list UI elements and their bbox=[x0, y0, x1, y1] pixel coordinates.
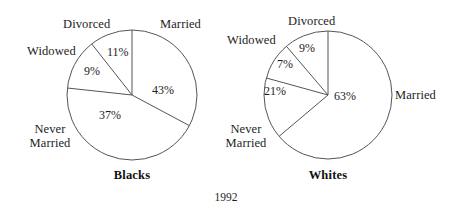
whites-value-never-married: 21% bbox=[264, 84, 286, 99]
blacks-value-married: 43% bbox=[152, 83, 174, 98]
whites-group-title: Whites bbox=[309, 168, 348, 183]
pie-whites-divider-married-never bbox=[279, 95, 328, 136]
whites-label-widowed: Widowed bbox=[227, 34, 276, 47]
blacks-label-married: Married bbox=[160, 18, 201, 31]
blacks-value-divorced: 11% bbox=[107, 45, 129, 60]
whites-value-married: 63% bbox=[334, 89, 356, 104]
blacks-value-never-married: 37% bbox=[99, 108, 121, 123]
pie-blacks-divider-never-widowed bbox=[67, 88, 132, 95]
whites-value-widowed: 7% bbox=[277, 57, 293, 72]
pie-blacks bbox=[67, 30, 197, 160]
blacks-label-divorced: Divorced bbox=[63, 18, 110, 31]
year-caption: 1992 bbox=[215, 191, 238, 203]
blacks-label-never-married: Never Married bbox=[22, 123, 78, 150]
blacks-value-widowed: 9% bbox=[84, 64, 100, 79]
whites-label-married: Married bbox=[395, 89, 436, 102]
blacks-label-widowed: Widowed bbox=[27, 45, 76, 58]
whites-label-never-married: Never Married bbox=[218, 123, 274, 150]
blacks-group-title: Blacks bbox=[114, 168, 151, 183]
whites-label-divorced: Divorced bbox=[288, 15, 335, 28]
pie-blacks-divider-married-never bbox=[132, 95, 189, 126]
whites-value-divorced: 9% bbox=[299, 41, 315, 56]
pie-chart-figure: Divorced Married Widowed Never Married 1… bbox=[0, 0, 452, 211]
pie-charts-canvas bbox=[0, 0, 452, 211]
